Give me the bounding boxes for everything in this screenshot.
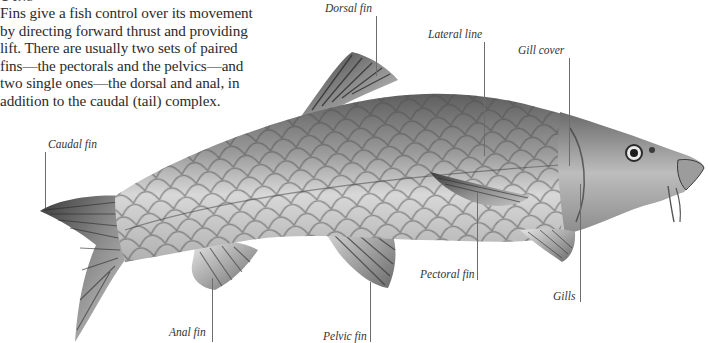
anal-fin-shape [192, 241, 258, 290]
fish-illustration [0, 0, 708, 343]
label-gills: Gills [553, 290, 575, 302]
gills-leader [580, 184, 581, 302]
label-pectoral-fin: Pectoral fin [420, 268, 475, 280]
label-anal-fin: Anal fin [169, 326, 206, 338]
dorsal-fin-leader [376, 16, 377, 76]
gill-cover-leader [569, 58, 570, 166]
gill-fin-shape [520, 229, 575, 262]
caudal-fin-shape [40, 196, 125, 342]
pectoral-fin-leader [477, 192, 478, 280]
caudal-fin-leader [45, 152, 46, 208]
anal-fin-leader [212, 278, 213, 342]
label-gill-cover: Gill cover [518, 44, 564, 56]
label-caudal-fin: Caudal fin [48, 138, 97, 150]
pelvic-fin-leader [370, 282, 371, 342]
label-dorsal-fin: Dorsal fin [325, 2, 372, 14]
label-pelvic-fin: Pelvic fin [323, 330, 367, 342]
label-lateral-line: Lateral line [428, 28, 482, 40]
lateral-line-leader [484, 42, 485, 156]
